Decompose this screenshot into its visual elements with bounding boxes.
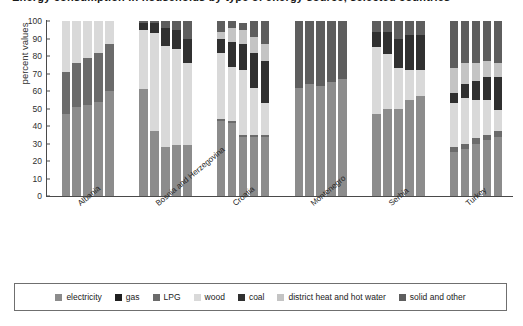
bar-group xyxy=(138,21,193,196)
bar-segment-coal xyxy=(450,93,459,104)
stacked-bar[interactable] xyxy=(72,21,81,196)
stacked-bar[interactable] xyxy=(327,21,336,196)
legend-item[interactable]: solid and other xyxy=(399,292,466,302)
bar-segment-coal xyxy=(472,81,481,100)
bar-segment-district-heat-and-hot-water xyxy=(217,32,226,39)
stacked-bar[interactable] xyxy=(450,21,459,196)
bar-segment-wood xyxy=(183,63,192,145)
bar-segment-LPG xyxy=(472,138,481,143)
bar-segment-wood xyxy=(472,100,481,139)
legend-label: wood xyxy=(205,292,225,302)
stacked-bar[interactable] xyxy=(295,21,304,196)
stacked-bar[interactable] xyxy=(139,21,148,196)
bar-segment-electricity xyxy=(494,137,503,197)
bar-segment-wood xyxy=(261,103,270,135)
legend-item[interactable]: electricity xyxy=(55,292,101,302)
bar-segment-LPG xyxy=(461,144,470,149)
stacked-bar[interactable] xyxy=(217,21,226,196)
bar-segment-coal xyxy=(150,23,159,34)
stacked-bar[interactable] xyxy=(394,21,403,196)
stacked-bar[interactable] xyxy=(105,21,114,196)
stacked-bar[interactable] xyxy=(383,21,392,196)
stacked-bar[interactable] xyxy=(83,21,92,196)
stacked-bar[interactable] xyxy=(416,21,425,196)
bar-segment-district-heat-and-hot-water xyxy=(494,63,503,77)
legend-label: solid and other xyxy=(410,292,466,302)
bar-segment-wood xyxy=(494,110,503,131)
bar-segment-wood xyxy=(228,67,237,121)
bar-segment-LPG xyxy=(217,119,226,121)
bar-segment-solid-and-other xyxy=(139,21,148,23)
stacked-bar[interactable] xyxy=(250,21,259,196)
bar-segment-wood xyxy=(405,70,414,100)
stacked-bar[interactable] xyxy=(161,21,170,196)
bar-segment-solid-and-other xyxy=(261,21,270,44)
bar-segment-coal xyxy=(494,77,503,110)
stacked-bar[interactable] xyxy=(405,21,414,196)
stacked-bar[interactable] xyxy=(94,21,103,196)
bar-segment-LPG xyxy=(494,131,503,136)
stacked-bar[interactable] xyxy=(494,21,503,196)
bar-segment-electricity xyxy=(394,109,403,197)
legend-label: electricity xyxy=(66,292,101,302)
bar-segment-wood xyxy=(416,70,425,96)
bar-segment-coal xyxy=(161,28,170,46)
bar-segment-wood xyxy=(172,49,181,145)
legend-item[interactable]: gas xyxy=(115,292,140,302)
bar-segment-electricity xyxy=(62,114,71,196)
stacked-bar[interactable] xyxy=(172,21,181,196)
stacked-bar[interactable] xyxy=(316,21,325,196)
stacked-bar[interactable] xyxy=(372,21,381,196)
stacked-bar[interactable] xyxy=(62,21,71,196)
bar-segment-LPG xyxy=(450,147,459,152)
bar-segment-wood xyxy=(394,68,403,108)
stacked-bar[interactable] xyxy=(472,21,481,196)
bar-segment-LPG xyxy=(250,135,259,137)
stacked-bar[interactable] xyxy=(461,21,470,196)
bar-segment-solid-and-other xyxy=(394,21,403,39)
bar-segment-electricity xyxy=(416,96,425,196)
bar-segment-LPG xyxy=(483,135,492,140)
legend-swatch-icon xyxy=(115,294,122,301)
legend-item[interactable]: LPG xyxy=(153,292,181,302)
legend-label: coal xyxy=(249,292,265,302)
bar-segment-wood xyxy=(483,100,492,135)
chart-title: Energy consumption in households by type… xyxy=(12,0,512,3)
bar-segment-solid-and-other xyxy=(327,21,336,82)
bar-segment-wood xyxy=(161,46,170,148)
bar-segment-wood xyxy=(239,70,248,135)
y-axis-tick-label: 90 xyxy=(0,34,42,44)
bar-segment-coal xyxy=(394,39,403,69)
bar-segment-wood xyxy=(450,103,459,147)
stacked-bar[interactable] xyxy=(483,21,492,196)
bar-segment-coal xyxy=(261,61,270,103)
bar-group xyxy=(449,21,504,196)
legend-item[interactable]: wood xyxy=(194,292,225,302)
stacked-bar[interactable] xyxy=(338,21,347,196)
stacked-bar[interactable] xyxy=(239,21,248,196)
bar-segment-district-heat-and-hot-water xyxy=(483,61,492,77)
stacked-bar[interactable] xyxy=(261,21,270,196)
bar-segment-LPG xyxy=(62,72,71,114)
chart-legend: electricitygasLPGwoodcoaldistrict heat a… xyxy=(14,283,507,311)
legend-swatch-icon xyxy=(277,294,284,301)
bar-segment-solid-and-other xyxy=(461,21,470,63)
stacked-bar[interactable] xyxy=(228,21,237,196)
legend-item[interactable]: district heat and hot water xyxy=(277,292,385,302)
bar-segment-coal xyxy=(372,32,381,48)
stacked-bar[interactable] xyxy=(150,21,159,196)
bar-segment-electricity xyxy=(228,123,237,197)
bar-segment-electricity xyxy=(372,114,381,196)
bar-segment-wood xyxy=(217,53,226,120)
legend-item[interactable]: coal xyxy=(238,292,265,302)
stacked-bar[interactable] xyxy=(305,21,314,196)
bar-segment-electricity xyxy=(72,107,81,196)
bar-segment-solid-and-other xyxy=(383,21,392,32)
bar-segment-coal xyxy=(217,39,226,53)
bar-segment-solid-and-other xyxy=(494,21,503,63)
bar-segment-wood xyxy=(62,21,71,72)
bar-segment-electricity xyxy=(461,149,470,196)
plot-area xyxy=(47,21,513,196)
bar-segment-solid-and-other xyxy=(161,21,170,28)
bar-group xyxy=(216,21,271,196)
